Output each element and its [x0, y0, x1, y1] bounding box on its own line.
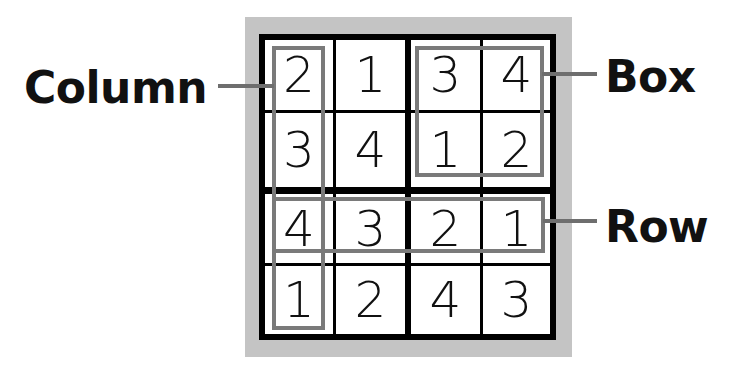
- column-label: Column: [24, 66, 207, 110]
- cell-r4-c2: 2: [336, 266, 405, 334]
- cell-r2-c3: 1: [411, 113, 480, 187]
- cell-r2-c1: 3: [265, 113, 333, 187]
- row-label: Row: [605, 205, 708, 249]
- cell-r4-c3: 4: [411, 266, 480, 334]
- cell-r1-c3: 3: [411, 40, 480, 110]
- cell-r3-c1: 4: [265, 194, 333, 263]
- cell-r4-c1: 1: [265, 266, 333, 334]
- box-leader-line: [542, 72, 597, 76]
- cell-r2-c4: 2: [483, 113, 550, 187]
- cell-r2-c2: 4: [336, 113, 405, 187]
- cell-r3-c3: 2: [411, 194, 480, 263]
- column-leader-line: [218, 84, 274, 88]
- box-label: Box: [605, 55, 696, 99]
- row-leader-line: [543, 219, 597, 223]
- cell-r3-c2: 3: [336, 194, 405, 263]
- cell-r1-c4: 4: [483, 40, 550, 110]
- cell-r1-c1: 2: [265, 40, 333, 110]
- cell-r3-c4: 1: [483, 194, 550, 263]
- cell-r1-c2: 1: [336, 40, 405, 110]
- cell-r4-c4: 3: [483, 266, 550, 334]
- sudoku-grid: 2 1 3 4 3 4 1 2 4 3 2 1 1 2 4 3: [259, 34, 556, 340]
